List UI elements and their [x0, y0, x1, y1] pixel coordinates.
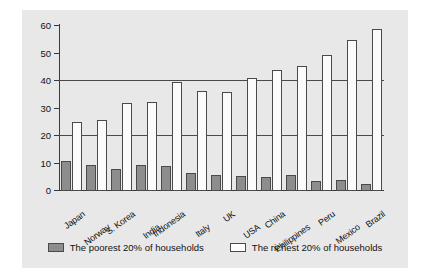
y-tick [54, 108, 59, 109]
bar-poorest [311, 181, 321, 191]
x-axis-label: Brazil [363, 209, 386, 230]
bar-poorest [236, 176, 246, 191]
bar-poorest [211, 175, 221, 192]
legend-item: The richest 20% of households [230, 242, 382, 253]
legend-swatch-poor [48, 243, 64, 252]
bar-richest [322, 55, 332, 191]
plot-area: 0102030405060 JapanNorwayS. KoreaIndiaIn… [59, 24, 384, 191]
x-axis-label: Japan [61, 209, 86, 231]
bar-poorest [361, 184, 371, 191]
bar-richest [247, 78, 257, 191]
bar-poorest [86, 165, 96, 191]
x-axis-label: Italy [193, 222, 211, 239]
y-tick-label: 20 [40, 130, 51, 141]
legend-swatch-rich [230, 243, 246, 252]
bar-poorest [336, 180, 346, 191]
gridline [59, 80, 384, 81]
y-tick [54, 53, 59, 54]
y-tick [54, 80, 59, 81]
bar-richest [147, 102, 157, 191]
bar-poorest [186, 173, 196, 191]
bar-richest [222, 92, 232, 191]
chart-legend: The poorest 20% of householdsThe richest… [22, 242, 408, 253]
bar-richest [372, 29, 382, 191]
y-tick-label: 50 [40, 47, 51, 58]
y-tick-label: 30 [40, 102, 51, 113]
bar-poorest [136, 165, 146, 191]
y-tick [54, 135, 59, 136]
bar-richest [172, 82, 182, 191]
bar-richest [97, 120, 107, 192]
bar-poorest [286, 175, 296, 192]
bar-richest [122, 103, 132, 191]
bar-richest [72, 122, 82, 191]
y-tick [54, 163, 59, 164]
x-axis-label: UK [221, 209, 237, 224]
chart-figure: 0102030405060 JapanNorwayS. KoreaIndiaIn… [22, 10, 408, 268]
bar-richest [297, 66, 307, 191]
bar-poorest [111, 169, 121, 191]
y-tick [54, 25, 59, 26]
y-axis-line [59, 24, 60, 191]
bar-poorest [61, 161, 71, 191]
bar-richest [272, 70, 282, 191]
x-axis-label: Peru [316, 209, 337, 228]
bar-richest [347, 40, 357, 191]
y-tick-label: 0 [46, 185, 51, 196]
x-axis-label: USA [241, 222, 261, 241]
bar-poorest [161, 166, 171, 191]
y-tick [54, 190, 59, 191]
y-tick-label: 60 [40, 20, 51, 31]
y-tick-label: 10 [40, 157, 51, 168]
x-axis-label: China [262, 209, 286, 230]
bar-poorest [261, 177, 271, 191]
legend-label: The richest 20% of households [252, 242, 382, 253]
legend-item: The poorest 20% of households [48, 242, 204, 253]
legend-label: The poorest 20% of households [70, 242, 204, 253]
y-tick-label: 40 [40, 75, 51, 86]
bar-richest [197, 91, 207, 191]
x-axis-label: S. Korea [103, 209, 136, 237]
